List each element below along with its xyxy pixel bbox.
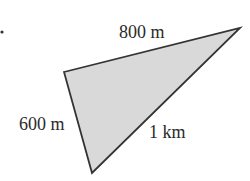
- triangle-shape: [64, 28, 240, 173]
- side-label-left: 600 m: [19, 114, 65, 134]
- bullet-dot: [0, 30, 3, 33]
- side-label-top: 800 m: [119, 22, 165, 42]
- triangle-diagram: 800 m 600 m 1 km: [0, 0, 250, 181]
- side-label-hypotenuse: 1 km: [149, 122, 186, 142]
